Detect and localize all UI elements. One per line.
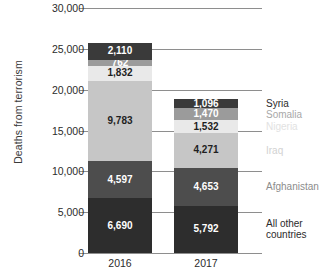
bar-segment[interactable]: 1,832	[88, 66, 152, 81]
stacked-bar-chart: Deaths from terrorism 05,00010,00015,000…	[0, 0, 321, 280]
bar-segment[interactable]: 1,470	[174, 108, 238, 120]
y-axis-title: Deaths from terrorism	[12, 32, 24, 192]
plot-area: 05,00010,00015,00020,00025,00030,0006,69…	[88, 8, 262, 253]
segment-value-label: 4,653	[193, 182, 218, 192]
y-axis-tick-label: 15,000	[28, 125, 84, 137]
bar-segment[interactable]: 1,096	[174, 99, 238, 108]
segment-value-label: 1,832	[107, 68, 132, 78]
y-axis-tick-label: 5,000	[28, 206, 84, 218]
bar-segment[interactable]: 6,690	[88, 198, 152, 253]
segment-value-label: 1,096	[193, 99, 218, 108]
bar-segment[interactable]: 9,783	[88, 81, 152, 161]
y-axis-tick-label: 20,000	[28, 84, 84, 96]
bar-segment[interactable]: 2,110	[88, 43, 152, 60]
gridline	[88, 253, 262, 254]
segment-value-label: 762	[112, 60, 129, 66]
bar-2017[interactable]: 5,7924,6534,2711,5321,4701,096	[174, 8, 238, 253]
y-axis-tick-label: 10,000	[28, 165, 84, 177]
segment-value-label: 1,532	[193, 122, 218, 132]
segment-value-label: 2,110	[108, 46, 132, 56]
legend-item-all-other-countries[interactable]: All other countries	[266, 218, 318, 240]
segment-value-label: 4,597	[107, 175, 132, 185]
bar-segment[interactable]: 4,271	[174, 133, 238, 168]
bar-segment[interactable]: 4,653	[174, 168, 238, 206]
segment-value-label: 5,792	[193, 224, 218, 234]
segment-value-label: 6,690	[107, 221, 132, 231]
y-axis-tick-label: 25,000	[28, 43, 84, 55]
segment-value-label: 4,271	[193, 145, 218, 155]
bar-segment[interactable]: 762	[88, 60, 152, 66]
y-axis-tick-label: 0	[28, 247, 84, 259]
legend-item-somalia[interactable]: Somalia	[266, 109, 302, 120]
legend-item-nigeria[interactable]: Nigeria	[266, 121, 298, 132]
y-axis-tick-label: 30,000	[28, 2, 84, 14]
bar-segment[interactable]: 1,532	[174, 120, 238, 133]
x-axis-tick-label: 2017	[174, 257, 238, 269]
bar-2016[interactable]: 6,6904,5979,7831,8327622,110	[88, 8, 152, 253]
x-axis-tick-label: 2016	[88, 257, 152, 269]
bar-segment[interactable]: 5,792	[174, 206, 238, 253]
legend-item-syria[interactable]: Syria	[266, 98, 289, 109]
segment-value-label: 9,783	[107, 116, 132, 126]
segment-value-label: 1,470	[193, 109, 218, 119]
legend-item-iraq[interactable]: Iraq	[266, 145, 283, 156]
bar-segment[interactable]: 4,597	[88, 161, 152, 199]
legend-item-afghanistan[interactable]: Afghanistan	[266, 181, 319, 192]
chart-legend: SyriaSomaliaNigeriaIraqAfghanistanAll ot…	[266, 8, 321, 253]
